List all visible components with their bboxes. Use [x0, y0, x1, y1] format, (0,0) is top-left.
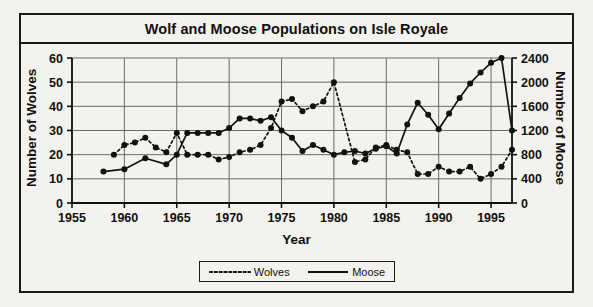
data-point-moose: [352, 148, 358, 154]
data-point-wolves: [488, 171, 494, 177]
data-point-wolves: [467, 164, 473, 170]
tick-label-bottom: 1955: [58, 211, 86, 225]
data-point-wolves: [258, 142, 264, 148]
tick-label-right: 1200: [521, 124, 549, 138]
data-point-moose: [142, 155, 148, 161]
legend-item-wolves: Wolves: [209, 266, 290, 278]
data-point-moose: [446, 111, 452, 117]
legend-swatch-dotted: [209, 267, 251, 277]
data-point-wolves: [415, 171, 421, 177]
data-point-moose: [184, 130, 190, 136]
tick-label-right: 0: [521, 197, 528, 211]
data-point-moose: [331, 152, 337, 158]
data-point-wolves: [121, 142, 127, 148]
data-point-wolves: [111, 152, 117, 158]
data-point-moose: [174, 152, 180, 158]
legend-label-wolves: Wolves: [254, 266, 290, 278]
data-point-moose: [195, 130, 201, 136]
legend-swatch-solid: [307, 267, 349, 277]
data-point-wolves: [226, 154, 232, 160]
data-point-moose: [341, 149, 347, 155]
data-point-moose: [310, 142, 316, 148]
data-point-wolves: [289, 96, 295, 102]
data-point-wolves: [184, 152, 190, 158]
data-point-wolves: [362, 157, 368, 163]
data-point-moose: [320, 147, 326, 153]
data-point-wolves: [352, 159, 358, 165]
data-point-wolves: [478, 176, 484, 182]
data-point-wolves: [457, 169, 463, 175]
legend-label-moose: Moose: [352, 266, 385, 278]
tick-label-left: 0: [56, 197, 63, 211]
data-point-wolves: [279, 99, 285, 105]
data-point-moose: [509, 128, 515, 134]
tick-label-bottom: 1980: [320, 211, 348, 225]
data-point-moose: [258, 118, 264, 124]
data-point-moose: [478, 70, 484, 76]
data-point-moose: [279, 128, 285, 134]
data-point-moose: [499, 55, 505, 61]
data-point-wolves: [331, 79, 337, 85]
data-point-moose: [404, 121, 410, 127]
tick-label-left: 40: [49, 100, 63, 114]
data-point-moose: [299, 148, 305, 154]
tick-label-bottom: 1970: [215, 211, 243, 225]
tick-label-bottom: 1965: [163, 211, 191, 225]
data-point-moose: [415, 100, 421, 106]
tick-label-bottom: 1975: [268, 211, 296, 225]
tick-label-left: 60: [49, 52, 63, 66]
data-point-wolves: [247, 147, 253, 153]
tick-label-right: 2400: [521, 52, 549, 66]
tick-label-left: 10: [49, 172, 63, 186]
data-point-wolves: [446, 169, 452, 175]
tick-label-right: 1600: [521, 100, 549, 114]
data-point-moose: [163, 161, 169, 167]
tick-label-bottom: 1990: [425, 211, 453, 225]
data-point-wolves: [205, 152, 211, 158]
data-point-moose: [394, 150, 400, 156]
tick-label-left: 50: [49, 76, 63, 90]
data-point-moose: [467, 80, 473, 86]
data-point-moose: [425, 112, 431, 118]
data-point-wolves: [174, 130, 180, 136]
chart-legend: Wolves Moose: [199, 261, 395, 282]
legend-item-moose: Moose: [307, 266, 385, 278]
data-point-moose: [205, 130, 211, 136]
tick-label-left: 30: [49, 124, 63, 138]
data-point-moose: [226, 125, 232, 131]
data-point-moose: [216, 130, 222, 136]
data-point-wolves: [425, 171, 431, 177]
data-point-wolves: [216, 157, 222, 163]
data-point-wolves: [163, 149, 169, 155]
data-point-moose: [436, 126, 442, 132]
tick-label-right: 2000: [521, 76, 549, 90]
tick-label-right: 400: [521, 172, 542, 186]
data-point-moose: [373, 146, 379, 152]
data-point-wolves: [436, 164, 442, 170]
data-point-wolves: [195, 152, 201, 158]
data-point-wolves: [509, 147, 515, 153]
data-point-moose: [457, 95, 463, 101]
data-point-wolves: [404, 149, 410, 155]
data-point-wolves: [132, 140, 138, 146]
data-point-moose: [488, 60, 494, 66]
tick-label-right: 800: [521, 148, 542, 162]
data-point-wolves: [237, 149, 243, 155]
data-point-moose: [121, 166, 127, 172]
data-point-wolves: [299, 108, 305, 114]
tick-label-bottom: 1985: [372, 211, 400, 225]
data-point-wolves: [320, 99, 326, 105]
data-point-moose: [237, 115, 243, 121]
data-point-wolves: [310, 103, 316, 109]
data-point-wolves: [153, 144, 159, 150]
data-point-moose: [100, 169, 106, 175]
data-point-wolves: [499, 164, 505, 170]
data-point-moose: [268, 114, 274, 120]
data-point-moose: [362, 150, 368, 156]
tick-label-bottom: 1995: [477, 211, 505, 225]
tick-label-left: 20: [49, 148, 63, 162]
tick-label-bottom: 1960: [110, 211, 138, 225]
data-point-wolves: [142, 135, 148, 141]
data-point-moose: [383, 143, 389, 149]
data-point-wolves: [268, 125, 274, 131]
